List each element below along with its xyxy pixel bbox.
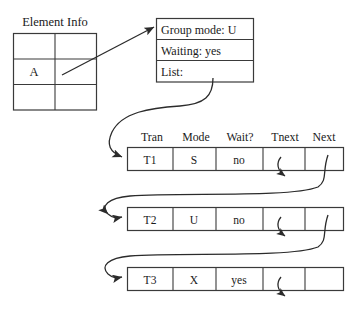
row-t1-wait: no <box>233 154 245 166</box>
row-t2-mode: U <box>190 214 199 226</box>
element-info-grid: A <box>14 34 97 111</box>
header-wait: Wait? <box>226 130 253 144</box>
pointer-t3-arrowhead <box>108 274 122 278</box>
table-row-t2: T2 U no <box>128 208 344 231</box>
row-t1-mode: S <box>191 154 197 166</box>
group-mode-line: Group mode: U <box>161 23 237 37</box>
row-t3-mode: X <box>190 274 199 286</box>
element-info-cell-a: A <box>29 65 38 79</box>
header-tnext: Tnext <box>271 130 299 144</box>
row-t2-tran: T2 <box>144 214 157 226</box>
list-line: List: <box>161 65 183 79</box>
row-t1-tran: T1 <box>144 154 157 166</box>
element-info-title: Element Info <box>22 15 88 29</box>
pointer-t2-arrowhead <box>108 214 122 218</box>
header-tran: Tran <box>141 130 163 144</box>
row-t3-tran: T3 <box>144 274 157 286</box>
diagram-canvas: Element Info A Group mode: U Waiting: ye… <box>0 0 357 312</box>
group-mode-block: Group mode: U Waiting: yes List: <box>157 19 254 83</box>
tran-table-headers: Tran Mode Wait? Tnext Next <box>141 130 336 144</box>
row-t2-wait: no <box>233 214 245 226</box>
header-mode: Mode <box>182 130 210 144</box>
header-next: Next <box>313 130 337 144</box>
pointer-list-to-t1 <box>109 78 213 157</box>
diagram-svg: Element Info A Group mode: U Waiting: ye… <box>0 0 357 312</box>
table-row-t1: T1 S no <box>128 148 344 171</box>
waiting-line: Waiting: yes <box>161 44 221 58</box>
table-row-t3: T3 X yes <box>128 268 344 291</box>
row-t3-wait: yes <box>231 274 247 287</box>
